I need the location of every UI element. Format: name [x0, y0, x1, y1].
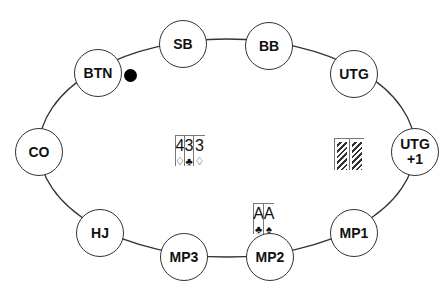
diamond-icon: ♢	[195, 155, 205, 167]
seat-utg1: UTG +1	[391, 128, 439, 176]
table-outline	[0, 0, 441, 299]
seat-label: MP1	[340, 226, 369, 241]
club-icon: ♣	[255, 223, 262, 235]
card-rank: 3	[195, 138, 204, 154]
seat-label: UTG +1	[400, 137, 430, 167]
seat-mp3: MP3	[160, 233, 208, 281]
seat-sb: SB	[159, 20, 207, 68]
spade-icon: ♠	[266, 223, 272, 235]
board-card: 3♢	[193, 135, 205, 166]
villain-face-down-cards	[334, 138, 364, 170]
seat-label: BB	[259, 39, 279, 54]
board-card: 3♣	[184, 135, 193, 166]
seat-label: UTG	[339, 67, 369, 82]
club-icon: ♣	[185, 155, 192, 167]
seat-label: MP2	[256, 250, 285, 265]
seat-hj: HJ	[76, 209, 124, 257]
seat-mp1: MP1	[330, 209, 378, 257]
seat-mp2: MP2	[246, 233, 294, 281]
seat-label: SB	[173, 37, 192, 52]
hero-card: A♠	[263, 203, 274, 234]
hero-cards: A♣ A♠	[253, 203, 274, 234]
card-rank: A	[264, 206, 275, 222]
card-back-icon	[334, 138, 349, 170]
hero-card: A♣	[253, 203, 263, 234]
seat-co: CO	[15, 128, 63, 176]
seat-label: BTN	[84, 66, 113, 81]
seat-label: CO	[29, 145, 50, 160]
seat-bb: BB	[245, 22, 293, 70]
seat-label: MP3	[170, 250, 199, 265]
seat-btn: BTN	[74, 49, 122, 97]
board-cards: 4♢ 3♣ 3♢	[175, 135, 205, 166]
board-card: 4♢	[175, 135, 184, 166]
seat-utg: UTG	[330, 50, 378, 98]
poker-table-diagram: BTN SB BB UTG UTG +1 MP1 MP2 MP3 HJ CO 4…	[0, 0, 441, 299]
dealer-button-icon	[124, 69, 137, 82]
seat-label: HJ	[91, 226, 109, 241]
card-back-icon	[349, 138, 364, 170]
